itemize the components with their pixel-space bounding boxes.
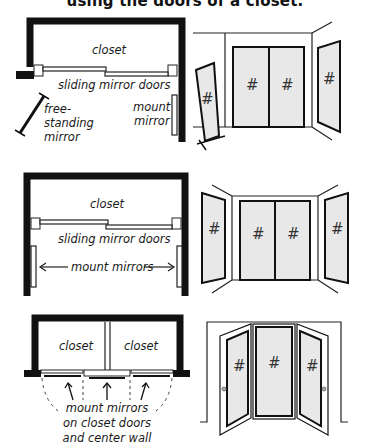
door-swing-right [156,378,172,411]
mount-mirrors-label: mount mirrors [71,260,154,274]
freestanding-mirror [20,96,44,133]
mount-label-2: mirror [134,114,171,128]
elevation-option-2: # # # # [202,185,348,293]
mount-label: mount [133,100,171,114]
svg-text:#: # [233,357,246,375]
closet-mirror-diagrams: closet sliding mirror doors mount mirror… [0,0,370,448]
door-knob-right [322,387,326,391]
elevation-option-3: # # # [200,322,348,435]
door-knob-left [222,387,226,391]
elevation-option-1: # # # # [193,22,340,150]
svg-text:#: # [306,357,319,375]
door-mirror-left [227,331,248,426]
sliding-door-1 [43,67,106,71]
closet-label: closet [92,43,127,57]
svg-text:#: # [287,225,300,243]
svg-text:#: # [323,70,336,88]
sliding-door-2 [105,72,168,76]
freestanding-label-3: mirror [44,130,81,144]
door-swing-left [42,378,58,411]
caption-line-2: on closet doors [63,416,151,430]
plan-option-2: closet sliding mirror doors mount mirror… [27,176,185,296]
closet-label: closet [90,197,125,211]
mounted-mirror-left [31,246,36,287]
wall-mirror-left [202,193,225,283]
door-jamb-left [31,218,40,229]
mounted-mirror-right [177,246,182,287]
svg-text:#: # [331,220,344,238]
doors-label: sliding mirror doors [58,232,170,246]
door-jamb-left [34,65,43,76]
door-jamb-right [172,218,181,229]
plan-option-1: closet sliding mirror doors mount mirror… [15,21,182,144]
plan-option-3: closet closet mount mirrors on closet do… [24,318,190,445]
mounted-mirror [172,95,177,135]
closet-left-label: closet [59,339,94,353]
svg-text:#: # [281,76,294,94]
closet-right-label: closet [124,339,159,353]
door-jamb-right [168,65,177,76]
freestanding-label-2: standing [44,116,94,130]
wall-stub-left [24,370,41,377]
caption-line-1: mount mirrors [66,401,149,415]
svg-text:#: # [208,220,221,238]
wall-stub [16,71,34,79]
caption-line-3: and center wall [63,431,153,445]
sliding-door-2 [106,225,172,229]
center-wall [84,370,130,376]
closet-door-left [41,370,83,373]
svg-text:#: # [201,90,214,108]
freestanding-label: free- [44,102,71,116]
doors-label: sliding mirror doors [58,78,170,92]
svg-text:#: # [252,225,265,243]
wall-stub-right [173,370,190,377]
closet-wall [35,318,180,372]
sliding-door-1 [40,220,108,224]
svg-text:#: # [268,354,281,372]
wall-mirror-right [325,193,348,283]
closet-door-right [131,370,173,373]
door-mirror-right [300,331,321,426]
mirror-glyph: # [246,76,259,94]
